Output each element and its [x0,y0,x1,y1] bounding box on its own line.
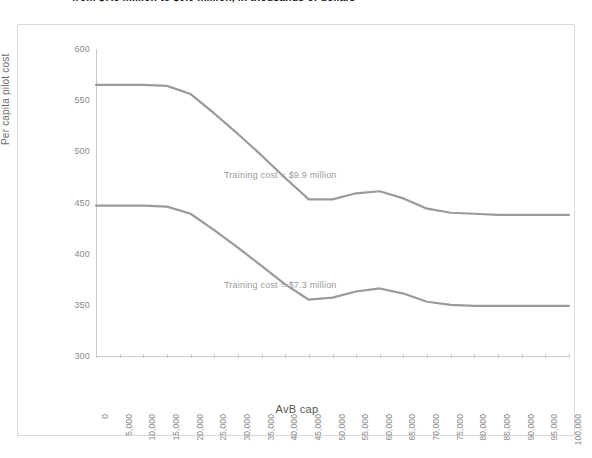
series-annotation-lower: Training cost = $7.3 million [224,280,337,290]
chart-frame: 600550500450400350300 Per capita pilot c… [17,24,575,436]
chart-page: from $7.3 million to $9.9 million, in th… [0,0,592,458]
figure-caption-strip: from $7.3 million to $9.9 million, in th… [0,0,592,11]
series-line-1 [96,206,569,306]
chart-series-lines [18,25,576,437]
y-axis-title: Per capita pilot cost [0,54,11,145]
series-line-0 [96,85,569,215]
figure-caption: from $7.3 million to $9.9 million, in th… [72,0,356,3]
series-annotation-upper: Training cost = $9.9 million [224,170,337,180]
